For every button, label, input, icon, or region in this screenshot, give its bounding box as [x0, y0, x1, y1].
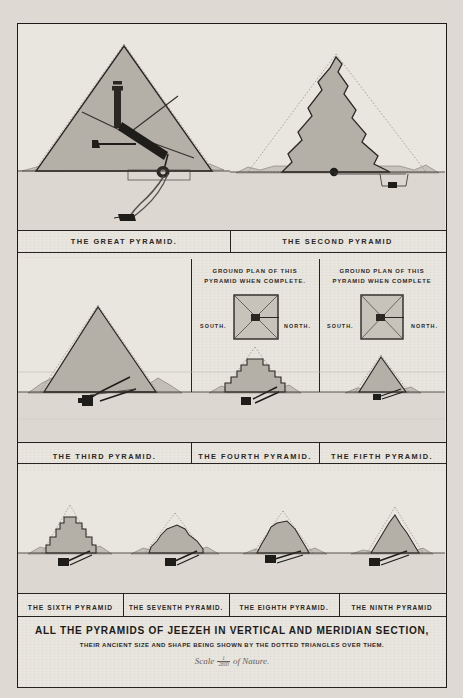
- panel-fifth-pyramid: GROUND PLAN OF THIS PYRAMID WHEN COMPLET…: [319, 259, 445, 463]
- great-pyramid-section: [18, 24, 230, 230]
- caption-fourth-pyramid: THE FOURTH PYRAMID.: [191, 452, 319, 461]
- caption-fifth-pyramid: THE FIFTH PYRAMID.: [319, 452, 445, 461]
- scale-suffix: of Nature.: [233, 656, 269, 666]
- seventh-pyramid-scene: [123, 471, 229, 616]
- panel-third-pyramid: THE THIRD PYRAMID.: [18, 259, 191, 463]
- row-middle: THE THIRD PYRAMID. GROUND PLAN OF THIS P…: [18, 259, 446, 463]
- panel-fourth-pyramid: GROUND PLAN OF THIS PYRAMID WHEN COMPLET…: [191, 259, 319, 463]
- plate-sub-title: THEIR ANCIENT SIZE AND SHAPE BEING SHOWN…: [18, 642, 446, 648]
- panel-second-pyramid: THE SECOND PYRAMID: [230, 24, 445, 252]
- caption-ninth-pyramid: THE NINTH PYRAMID: [339, 604, 445, 611]
- scale-fraction: 1 2800: [217, 656, 229, 667]
- fifth-pyramid-section: [319, 259, 445, 442]
- caption-third-pyramid: THE THIRD PYRAMID.: [18, 452, 191, 461]
- ground-plan-square-fourth: [234, 295, 279, 339]
- row-top: THE GREAT PYRAMID.: [18, 24, 446, 252]
- caption-sixth-pyramid: THE SIXTH PYRAMID: [18, 604, 123, 611]
- scale-denominator: 2800: [217, 662, 229, 667]
- caption-eighth-pyramid: THE EIGHTH PYRAMID.: [229, 604, 339, 611]
- sixth-pyramid-scene: [18, 471, 123, 616]
- eighth-pyramid-section: [229, 471, 339, 593]
- fourth-pyramid-section: [191, 259, 319, 442]
- seventh-pyramid-section: [123, 471, 229, 593]
- divider-row-top-bottom: [18, 252, 446, 253]
- panel-eighth-pyramid: THE EIGHTH PYRAMID.: [229, 471, 339, 616]
- ground-plan-square-fifth: [361, 295, 404, 339]
- fourth-pyramid-scene: [191, 259, 319, 463]
- caption-seventh-pyramid: THE SEVENTH PYRAMID.: [123, 604, 229, 611]
- sixth-pyramid-section: [18, 471, 123, 593]
- row-bottom: THE SIXTH PYRAMID THE SEVENTH PYRAMID.: [18, 471, 446, 616]
- plate-main-title: ALL THE PYRAMIDS OF JEEZEH IN VERTICAL A…: [18, 625, 446, 636]
- second-pyramid-section: [230, 24, 445, 230]
- third-pyramid-section: [18, 259, 191, 442]
- caption-second-pyramid: THE SECOND PYRAMID: [230, 237, 445, 246]
- engraving-plate: THE GREAT PYRAMID.: [17, 23, 447, 688]
- divider-above-top-captions: [18, 230, 446, 231]
- scale-prefix: Scale: [195, 656, 215, 666]
- third-pyramid-scene: [18, 259, 191, 463]
- panel-ninth-pyramid: THE NINTH PYRAMID: [339, 471, 445, 616]
- divider-titleblock-bottom: [18, 687, 446, 688]
- panel-great-pyramid: THE GREAT PYRAMID.: [18, 24, 230, 252]
- ninth-pyramid-scene: [339, 471, 445, 616]
- fifth-pyramid-scene: [319, 259, 445, 463]
- panel-sixth-pyramid: THE SIXTH PYRAMID: [18, 471, 123, 616]
- panel-seventh-pyramid: THE SEVENTH PYRAMID.: [123, 471, 229, 616]
- divider-above-bottom-captions: [18, 593, 446, 594]
- plate-scale-note: Scale 1 2800 of Nature.: [18, 656, 446, 668]
- eighth-pyramid-scene: [229, 471, 339, 616]
- divider-row-middle-bottom: [18, 463, 446, 464]
- ninth-pyramid-section: [339, 471, 445, 593]
- second-pyramid-scene: [230, 24, 445, 252]
- divider-above-middle-captions: [18, 442, 446, 443]
- caption-great-pyramid: THE GREAT PYRAMID.: [18, 237, 230, 246]
- great-pyramid-scene: [18, 24, 230, 252]
- title-block: ALL THE PYRAMIDS OF JEEZEH IN VERTICAL A…: [18, 616, 446, 687]
